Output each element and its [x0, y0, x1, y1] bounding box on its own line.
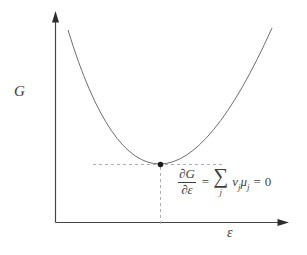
g-vs-epsilon-figure: G ε ∂G ∂ε = ∑ j ν j μ j = 0 — [0, 0, 307, 255]
sigma-subscript: j — [219, 189, 222, 197]
x-axis-label: ε — [227, 225, 233, 241]
summation-symbol-group: ∑ j — [213, 168, 228, 196]
equilibrium-condition-equation: ∂G ∂ε = ∑ j ν j μ j = 0 — [176, 167, 271, 198]
zero-value: 0 — [265, 174, 272, 190]
g-curve — [68, 28, 272, 164]
equals-sign-2: = — [253, 174, 260, 190]
partial-derivative-fraction: ∂G ∂ε — [176, 167, 198, 198]
sigma-icon: ∑ — [213, 168, 228, 186]
equals-sign-1: = — [202, 174, 209, 190]
fraction-denominator: ∂ε — [178, 182, 196, 198]
plot-canvas — [0, 0, 307, 255]
minimum-point-marker — [158, 162, 164, 168]
fraction-numerator: ∂G — [176, 167, 198, 182]
mu-subscript: j — [247, 182, 250, 192]
nu-subscript: j — [238, 182, 241, 192]
y-axis-arrowhead-icon — [52, 11, 59, 23]
y-axis-label: G — [14, 83, 25, 100]
x-axis-arrowhead-icon — [278, 219, 290, 226]
summand-terms: ν j μ j = 0 — [232, 174, 271, 190]
